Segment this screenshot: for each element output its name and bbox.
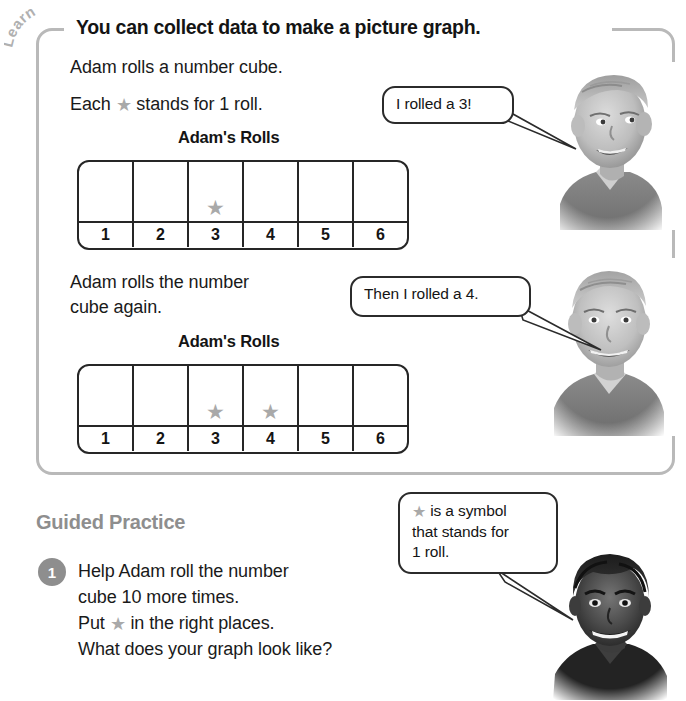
photo-boy-looking-up [538,62,678,230]
text-each-star-legend: Each ★ stands for 1 roll. [70,94,263,116]
graph1-plot-cell-2[interactable] [134,162,189,221]
graph1-label-4: 4 [244,223,299,247]
graph2-label-4: 4 [244,427,299,451]
graph2-plot-cell-3[interactable]: ★ [189,366,244,425]
graph1-plot-row: ★ [79,162,407,221]
star-icon: ★ [206,197,225,218]
graph2-label-5: 5 [299,427,354,451]
guided-practice-heading: Guided Practice [36,511,185,534]
graph2-label-row: 1 2 3 4 5 6 [79,425,407,451]
graph2-plot-row: ★ ★ [79,366,407,425]
each-prefix: Each [70,94,111,114]
put-prefix: Put [78,613,105,633]
graph2-plot-cell-2[interactable] [134,366,189,425]
graph1-plot-cell-3[interactable]: ★ [189,162,244,221]
learn-tab-label: Learn [4,2,78,58]
star-icon: ★ [261,401,280,422]
graph2-title: Adam's Rolls [178,332,279,351]
star-icon: ★ [110,613,126,635]
graph1-label-5: 5 [299,223,354,247]
symbol-key-line3: 1 roll. [412,542,544,562]
text-rolls-again-line2: cube again. [70,297,162,318]
graph2-label-2: 2 [134,427,189,451]
graph1-plot-cell-1[interactable] [79,162,134,221]
question-1-line-3: Put ★ in the right places. [78,613,275,635]
picture-graph-2: ★ ★ 1 2 3 4 5 6 [77,364,409,454]
text-rolls-again-line1: Adam rolls the number [70,272,249,293]
graph1-plot-cell-5[interactable] [299,162,354,221]
star-icon: ★ [116,94,132,116]
graph1-label-6: 6 [354,223,407,247]
speech-bubble-second-roll: Then I rolled a 4. [350,276,531,317]
each-suffix: stands for 1 roll. [136,94,262,114]
graph1-label-row: 1 2 3 4 5 6 [79,221,407,247]
star-icon: ★ [206,401,225,422]
graph1-title: Adam's Rolls [178,128,279,147]
page-title: You can collect data to make a picture g… [70,16,486,39]
graph2-plot-cell-4[interactable]: ★ [244,366,299,425]
graph2-plot-cell-6[interactable] [354,366,407,425]
put-suffix: in the right places. [130,613,274,633]
graph1-plot-cell-6[interactable] [354,162,407,221]
graph1-label-3: 3 [189,223,244,247]
graph1-label-2: 2 [134,223,189,247]
speech-bubble-symbol-key: ★ is a symbol that stands for 1 roll. [398,492,558,574]
graph1-plot-cell-4[interactable] [244,162,299,221]
picture-graph-1: ★ 1 2 3 4 5 6 [77,160,409,250]
symbol-key-line1-text: is a symbol [430,502,506,519]
graph2-label-1: 1 [79,427,134,451]
graph2-plot-cell-1[interactable] [79,366,134,425]
question-1-line-4: What does your graph look like? [78,639,332,660]
symbol-key-line2: that stands for [412,522,544,542]
graph2-label-6: 6 [354,427,407,451]
symbol-key-line1: ★ is a symbol [412,501,544,522]
learn-tab-text: Learn [4,2,38,48]
question-1-line-2: cube 10 more times. [78,587,239,608]
photo-boy-smiling [538,258,678,436]
speech-bubble-first-roll: I rolled a 3! [382,86,514,124]
text-adam-rolls-cube: Adam rolls a number cube. [70,57,283,78]
question-1-line-1: Help Adam roll the number [78,561,289,582]
graph2-label-3: 3 [189,427,244,451]
star-icon: ★ [412,502,426,522]
graph1-label-1: 1 [79,223,134,247]
photo-girl-smiling [535,548,685,700]
graph2-plot-cell-5[interactable] [299,366,354,425]
question-number-badge: 1 [38,558,66,586]
